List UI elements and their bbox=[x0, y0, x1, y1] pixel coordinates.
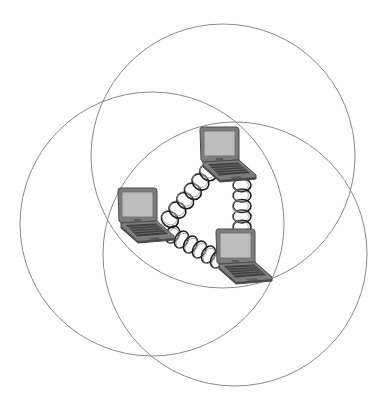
laptop-top bbox=[200, 127, 256, 182]
network-diagram bbox=[0, 0, 383, 403]
laptop-icon bbox=[216, 229, 272, 284]
laptop-right bbox=[216, 229, 272, 284]
laptop-left bbox=[118, 188, 174, 243]
laptop-icon bbox=[200, 127, 256, 182]
link-top-right bbox=[232, 179, 251, 233]
laptop-nodes bbox=[118, 127, 272, 284]
diagram-canvas bbox=[0, 0, 383, 403]
laptop-icon bbox=[118, 188, 174, 243]
